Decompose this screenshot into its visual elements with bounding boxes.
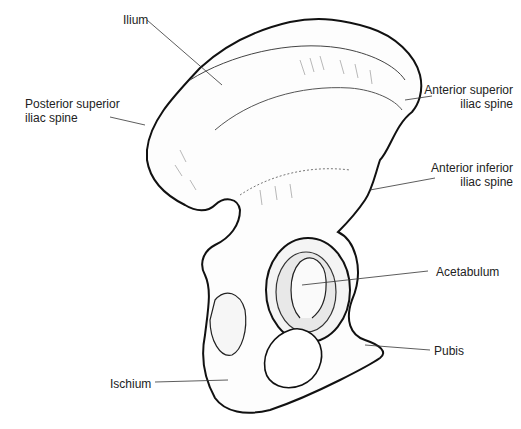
label-pubis: Pubis xyxy=(434,344,464,358)
label-ilium: Ilium xyxy=(123,13,148,27)
label-acetabulum: Acetabulum xyxy=(436,265,499,279)
label-anterior-inferior-iliac-spine: Anterior inferior iliac spine xyxy=(413,161,513,189)
hip-bone-illustration xyxy=(0,0,521,429)
hip-bone-diagram: Ilium Posterior superior iliac spine Ant… xyxy=(0,0,521,429)
label-ischium: Ischium xyxy=(110,377,151,391)
label-posterior-superior-iliac-spine: Posterior superior iliac spine xyxy=(25,97,120,125)
label-anterior-superior-iliac-spine: Anterior superior iliac spine xyxy=(413,83,513,111)
